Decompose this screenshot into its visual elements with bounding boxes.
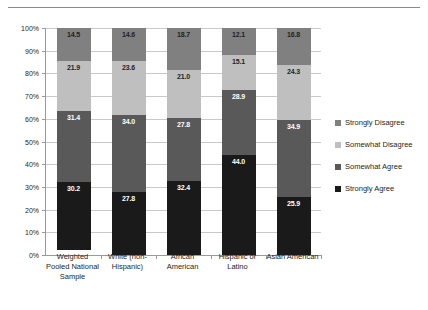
y-axis-tick-label: 90% [25, 47, 39, 54]
bar-segment-value-label: 16.8 [287, 28, 300, 38]
y-axis-tick-label: 50% [25, 138, 39, 145]
bar-segment-value-label: 34.0 [122, 115, 135, 125]
legend-swatch-icon [335, 120, 341, 126]
bar-segment[interactable]: 32.4 [167, 181, 201, 255]
y-axis-tick-label: 20% [25, 206, 39, 213]
x-axis-category-label: Asian American [255, 252, 331, 262]
bar-stack[interactable]: 14.521.931.430.2 [57, 28, 91, 255]
chart-legend: Strongly DisagreeSomewhat DisagreeSomewh… [335, 118, 428, 206]
y-axis-tick-label: 60% [25, 115, 39, 122]
legend-item[interactable]: Strongly Disagree [335, 118, 428, 127]
bar-segment-value-label: 28.9 [232, 90, 245, 100]
bar-segment[interactable]: 14.6 [112, 28, 146, 61]
y-axis-tick-mark [42, 28, 46, 29]
y-axis-tick-label: 70% [25, 93, 39, 100]
bar-segment-value-label: 18.7 [177, 28, 190, 38]
bar-segment[interactable]: 27.8 [167, 118, 201, 181]
legend-item-label: Strongly Agree [345, 184, 394, 193]
bar-segment-value-label: 30.2 [67, 182, 80, 192]
bar-segment[interactable]: 21.0 [167, 70, 201, 118]
bar-segment-value-label: 14.5 [67, 28, 80, 38]
bar-segment[interactable]: 15.1 [222, 55, 256, 89]
legend-item[interactable]: Somewhat Disagree [335, 140, 428, 149]
bar-segment[interactable]: 12.1 [222, 28, 256, 55]
chart-area: 0%10%20%30%40%50%60%70%80%90%100%14.521.… [0, 14, 428, 310]
legend-swatch-icon [335, 186, 341, 192]
bar-segment-value-label: 15.1 [232, 55, 245, 65]
bar-segment-value-label: 14.6 [122, 28, 135, 38]
y-axis-tick-mark [42, 232, 46, 233]
bar-stack[interactable]: 14.623.634.027.8 [112, 28, 146, 255]
bar-segment[interactable]: 25.9 [277, 197, 311, 255]
bar-segment-value-label: 27.8 [122, 192, 135, 202]
bar-segment-value-label: 32.4 [177, 181, 190, 191]
bar-segment[interactable]: 23.6 [112, 61, 146, 115]
bar-segment[interactable]: 18.7 [167, 28, 201, 70]
legend-item-label: Strongly Disagree [345, 118, 405, 127]
bar-stack[interactable]: 18.721.027.832.4 [167, 28, 201, 255]
bar-stack[interactable]: 16.824.334.925.9 [277, 28, 311, 255]
bar-segment-value-label: 24.3 [287, 65, 300, 75]
bar-segment-value-label: 23.6 [122, 61, 135, 71]
bar-segment[interactable]: 24.3 [277, 65, 311, 119]
bar-segment-value-label: 34.9 [287, 120, 300, 130]
bar-segment[interactable]: 44.0 [222, 155, 256, 255]
legend-item[interactable]: Strongly Agree [335, 184, 428, 193]
bar-segment[interactable]: 28.9 [222, 90, 256, 156]
plot-area: 0%10%20%30%40%50%60%70%80%90%100%14.521.… [45, 28, 321, 256]
legend-item-label: Somewhat Disagree [345, 140, 413, 149]
bar-segment-value-label: 21.9 [67, 61, 80, 71]
bar-segment-value-label: 31.4 [67, 111, 80, 121]
x-axis-category-label-line: Asian American [255, 252, 331, 262]
y-axis-tick-mark [42, 51, 46, 52]
y-axis-tick-label: 80% [25, 70, 39, 77]
y-axis-tick-label: 10% [25, 229, 39, 236]
bar-stack[interactable]: 12.115.128.944.0 [222, 28, 256, 255]
y-axis-tick-mark [42, 142, 46, 143]
y-axis-tick-label: 30% [25, 183, 39, 190]
bar-segment[interactable]: 31.4 [57, 111, 91, 182]
bar-segment[interactable]: 14.5 [57, 28, 91, 61]
bar-segment[interactable]: 34.0 [112, 115, 146, 192]
y-axis-tick-label: 100% [21, 25, 39, 32]
bar-segment[interactable]: 27.8 [112, 192, 146, 255]
y-axis-tick-mark [42, 73, 46, 74]
legend-swatch-icon [335, 142, 341, 148]
top-divider-rule [8, 7, 420, 8]
y-axis-tick-mark [42, 210, 46, 211]
bar-segment[interactable]: 16.8 [277, 28, 311, 65]
y-axis-tick-label: 40% [25, 161, 39, 168]
bar-segment[interactable]: 34.9 [277, 120, 311, 198]
bar-segment[interactable]: 30.2 [57, 182, 91, 251]
bar-segment-value-label: 25.9 [287, 197, 300, 207]
y-axis-tick-mark [42, 96, 46, 97]
bar-segment-value-label: 12.1 [232, 28, 245, 38]
y-axis-tick-mark [42, 164, 46, 165]
bar-segment-value-label: 27.8 [177, 118, 190, 128]
legend-swatch-icon [335, 164, 341, 170]
bar-segment-value-label: 44.0 [232, 155, 245, 165]
legend-item[interactable]: Somewhat Agree [335, 162, 428, 171]
bar-segment[interactable]: 21.9 [57, 61, 91, 111]
legend-item-label: Somewhat Agree [345, 162, 402, 171]
x-axis-category-label-line: Latino [200, 262, 276, 272]
bar-segment-value-label: 21.0 [177, 70, 190, 80]
y-axis-tick-mark [42, 187, 46, 188]
y-axis-tick-mark [42, 119, 46, 120]
x-axis-category-label-line: Sample [35, 272, 111, 282]
